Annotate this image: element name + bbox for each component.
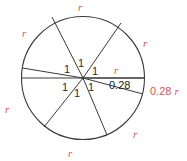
outer-arc-value: 0.28 bbox=[150, 85, 171, 97]
sector-label-lower-right: 1 bbox=[88, 82, 94, 93]
geometry-figure: r r r r r r r 1 1 1 1 1 1 0.28 0.28r bbox=[0, 0, 187, 161]
sector-label-bottom-center: 1 bbox=[74, 88, 80, 99]
radius-label-lower-left: r bbox=[5, 104, 9, 115]
spoke-upper-left bbox=[23, 68, 84, 78]
outer-arc-symbol: r bbox=[174, 85, 178, 97]
chord-length-label: 0.28 bbox=[109, 80, 130, 91]
sector-label-lower-left: 1 bbox=[62, 82, 68, 93]
outer-arc-label: 0.28r bbox=[150, 86, 179, 97]
radius-label-inner-right: r bbox=[114, 65, 118, 76]
sector-label-upper-left: 1 bbox=[64, 64, 70, 75]
radius-label-top: r bbox=[78, 2, 82, 13]
radius-label-lower-right: r bbox=[133, 129, 137, 140]
sector-label-top-center: 1 bbox=[78, 58, 84, 69]
spoke-bottom-right bbox=[83, 78, 107, 135]
radius-label-upper-left: r bbox=[22, 28, 26, 39]
center-point bbox=[82, 77, 85, 80]
radius-label-upper-right: r bbox=[143, 38, 147, 49]
sector-label-upper-right: 1 bbox=[92, 66, 98, 77]
radius-label-bottom: r bbox=[68, 148, 72, 159]
